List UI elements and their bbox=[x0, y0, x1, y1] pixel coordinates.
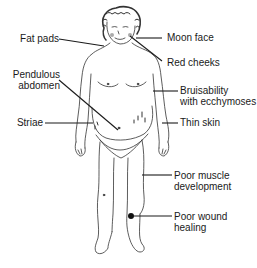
label-line: Fat pads bbox=[19, 33, 59, 44]
label-line: abdomen bbox=[5, 80, 60, 91]
label-poor-muscle: Poor muscle development bbox=[174, 170, 231, 192]
label-line: Poor wound bbox=[174, 211, 227, 222]
wound-mark bbox=[128, 213, 134, 219]
label-pendulous-abdomen: Pendulous abdomen bbox=[5, 69, 60, 91]
label-line: Bruisability bbox=[180, 85, 256, 96]
label-line: with ecchymoses bbox=[180, 96, 256, 107]
label-line: healing bbox=[174, 222, 227, 233]
label-line: Striae bbox=[5, 117, 43, 128]
moon-face bbox=[107, 22, 135, 44]
label-line: Moon face bbox=[167, 32, 214, 43]
hair bbox=[103, 7, 140, 40]
label-striae: Striae bbox=[5, 117, 43, 128]
label-poor-wound: Poor wound healing bbox=[174, 211, 227, 233]
label-fat-pads: Fat pads bbox=[19, 33, 59, 44]
label-bruisability: Bruisability with ecchymoses bbox=[180, 85, 256, 107]
label-moon-face: Moon face bbox=[167, 32, 214, 43]
leader-red-cheeks bbox=[130, 36, 162, 61]
label-line: Thin skin bbox=[180, 117, 220, 128]
label-red-cheeks: Red cheeks bbox=[167, 57, 220, 68]
label-thin-skin: Thin skin bbox=[180, 117, 220, 128]
red-cheek-left bbox=[110, 33, 114, 37]
label-line: Red cheeks bbox=[167, 57, 220, 68]
label-line: Pendulous bbox=[5, 69, 60, 80]
label-line: development bbox=[174, 181, 231, 192]
label-line: Poor muscle bbox=[174, 170, 231, 181]
leader-fat-pads bbox=[59, 39, 104, 46]
diagram: Fat pads Pendulous abdomen Striae Moon f… bbox=[0, 0, 257, 268]
pendulous-belly bbox=[92, 106, 153, 140]
